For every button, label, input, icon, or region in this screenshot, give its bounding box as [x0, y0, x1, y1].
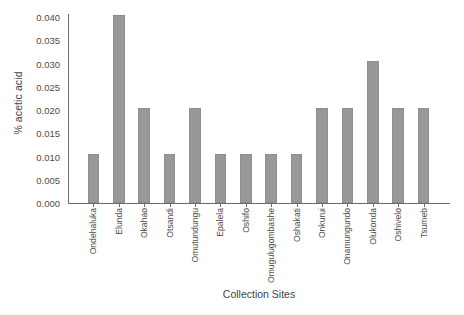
x-axis-tick-mark: [93, 204, 94, 207]
x-axis-tick-mark: [144, 204, 145, 207]
x-axis-tick-label-text: Oshifo: [242, 208, 251, 233]
x-axis-tick-label-text: Tsumeb: [419, 208, 428, 238]
bar: [113, 15, 125, 203]
y-axis-tick-label: 0.040: [36, 12, 60, 23]
x-axis-tick-mark: [220, 204, 221, 207]
x-axis-tick-mark: [297, 204, 298, 207]
bar: [316, 108, 328, 203]
y-axis-tick-label: 0.005: [36, 174, 60, 185]
bar-chart-figure: % acetic acid 0.0000.0050.0100.0150.0200…: [0, 0, 464, 315]
bar: [215, 154, 227, 203]
x-axis-tick-label-text: Onamungundo: [343, 208, 352, 265]
y-axis-tick-label: 0.010: [36, 151, 60, 162]
bar: [240, 154, 252, 203]
x-axis-tick-mark: [373, 204, 374, 207]
x-axis-tick-mark: [398, 204, 399, 207]
x-axis-tick-label-text: Onkurui: [318, 208, 327, 238]
x-axis-tick-label-text: Ondehaluka: [89, 208, 98, 254]
bar: [291, 154, 303, 203]
bar: [418, 108, 430, 203]
x-axis-tick-label-text: Oshakati: [292, 208, 301, 242]
y-axis-tick-label: 0.035: [36, 35, 60, 46]
x-axis-tick-mark: [347, 204, 348, 207]
x-axis-tick-mark: [271, 204, 272, 207]
y-axis-tick-label: 0.025: [36, 81, 60, 92]
bar: [265, 154, 277, 203]
bar: [164, 154, 176, 203]
x-axis-tick-label-text: Epalela: [216, 208, 225, 237]
x-axis-tick-label-text: Elunda: [115, 208, 124, 235]
x-axis-tick-mark: [424, 204, 425, 207]
x-axis-tick-mark: [119, 204, 120, 207]
x-axis-tick-label-text: Olukonda: [369, 208, 378, 245]
x-axis-tick-label-text: Otsandi: [165, 208, 174, 238]
bar: [138, 108, 150, 203]
x-axis-tick-label-text: Oshivelo: [394, 208, 403, 241]
x-axis-title: Collection Sites: [68, 288, 450, 300]
x-axis-tick-mark: [170, 204, 171, 207]
x-axis-tick-labels: OndehalukaElundaOkahaoOtsandiOmutundungu…: [68, 208, 450, 280]
bar: [342, 108, 354, 203]
x-axis-line: [68, 203, 450, 204]
plot-area: [68, 17, 449, 203]
y-axis-tick-label: 0.000: [36, 198, 60, 209]
bar: [367, 61, 379, 203]
y-axis-tick-label: 0.020: [36, 105, 60, 116]
bar: [88, 154, 100, 203]
x-axis-tick-mark: [246, 204, 247, 207]
y-axis-tick-labels: 0.0000.0050.0100.0150.0200.0250.0300.035…: [22, 0, 64, 210]
x-axis-tick-label-text: Okahao: [140, 208, 149, 238]
bar: [189, 108, 201, 203]
x-axis-tick-mark: [322, 204, 323, 207]
x-axis-tick-label-text: Omugulugombashe: [267, 208, 276, 283]
y-axis-tick-label: 0.030: [36, 58, 60, 69]
bar: [392, 108, 404, 203]
y-axis-tick-label: 0.015: [36, 128, 60, 139]
x-axis-tick-mark: [195, 204, 196, 207]
x-axis-tick-label-text: Omutundungu: [191, 208, 200, 262]
